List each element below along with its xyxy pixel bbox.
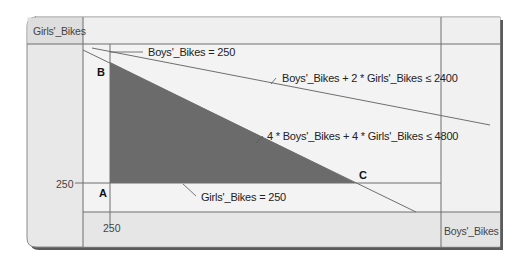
top-margin: [83, 18, 500, 45]
point-c-label: C: [359, 169, 367, 181]
right-margin: [441, 44, 500, 212]
point-a-label: A: [99, 187, 107, 199]
boys-min-label: Boys'_Bikes = 250: [148, 46, 235, 58]
y-axis-label: Girls'_Bikes: [33, 25, 86, 37]
x-axis-label: Boys'_Bikes: [444, 225, 499, 237]
bottom-margin: [83, 212, 441, 247]
y-tick-250: 250: [56, 178, 74, 190]
point-b-label: B: [97, 66, 105, 78]
assembly-constraint-label: Boys'_Bikes + 2 * Girls'_Bikes ≤ 2400: [282, 72, 458, 84]
labor-constraint-label: 4 * Boys'_Bikes + 4 * Girls'_Bikes ≤ 480…: [267, 130, 458, 142]
diagram-canvas: Girls'_Bikes Boys'_Bikes 250 250 B A C B…: [0, 0, 524, 264]
girls-min-label: Girls'_Bikes = 250: [201, 191, 286, 203]
x-tick-250: 250: [103, 222, 121, 234]
